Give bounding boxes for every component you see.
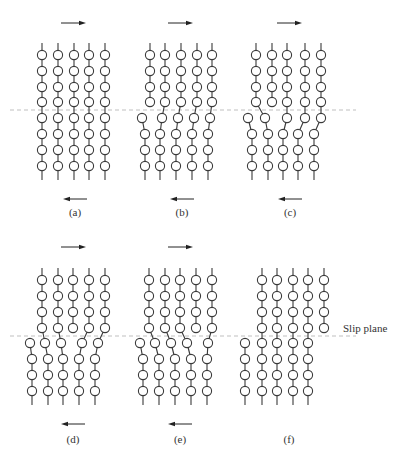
atom-circle-icon [84,50,93,59]
atom-circle-icon [100,307,109,316]
atom-circle-icon [100,161,109,170]
atom-column [53,268,67,405]
atom-circle-icon [173,113,182,122]
atom-circle-icon [160,307,169,316]
atom-circle-icon [37,50,46,59]
atom-circle-icon [251,50,260,59]
atom-circle-icon [257,291,266,300]
atom-column [68,268,77,333]
atom-circle-icon [84,307,93,316]
atom-circle-icon [144,323,153,332]
atom-circle-icon [170,370,179,379]
atom-circle-icon [69,50,78,59]
atom-circle-icon [251,66,260,75]
atom-circle-icon [84,161,93,170]
atom-circle-icon [282,82,291,91]
atom-circle-icon [263,145,272,154]
atom-circle-icon [100,82,109,91]
atom-circle-icon [282,113,291,122]
atom-circle-icon [138,386,147,395]
atom-circle-icon [43,354,52,363]
atom-circle-icon [37,275,46,284]
atom-circle-icon [191,307,200,316]
atom-circle-icon [282,66,291,75]
atom-circle-icon [192,50,201,59]
atom-circle-icon [187,161,196,170]
atom-circle-icon [145,50,154,59]
atom-column [257,268,266,405]
atom-circle-icon [293,145,302,154]
atom-circle-icon [251,97,260,106]
atom-circle-icon [53,275,62,284]
atom-circle-icon [240,354,249,363]
atom-circle-icon [288,275,297,284]
atom-circle-icon [288,370,297,379]
atom-circle-icon [160,50,169,59]
atom-circle-icon [135,338,144,347]
atom-circle-icon [316,97,325,106]
atom-circle-icon [68,307,77,316]
atom-circle-icon [267,82,276,91]
atom-circle-icon [93,338,102,347]
atom-circle-icon [90,370,99,379]
atom-circle-icon [191,291,200,300]
atom-column [203,43,216,180]
atom-circle-icon [140,161,149,170]
atom-circle-icon [247,129,256,138]
atom-circle-icon [203,161,212,170]
atom-circle-icon [160,291,169,300]
atom-column [145,43,154,107]
atom-circle-icon [257,370,266,379]
atom-circle-icon [207,291,216,300]
atom-circle-icon [316,82,325,91]
panel-b: (b) [137,21,216,219]
atom-circle-icon [288,307,297,316]
atom-circle-icon [288,338,297,347]
atom-circle-icon [207,323,216,332]
atom-column [37,268,52,405]
atom-circle-icon [53,129,62,138]
atom-circle-icon [53,291,62,300]
atom-circle-icon [74,370,83,379]
atom-circle-icon [272,323,281,332]
atom-column [303,268,312,405]
atom-circle-icon [267,97,276,106]
atom-circle-icon [272,354,281,363]
atom-column [53,43,62,180]
atom-circle-icon [100,323,109,332]
atom-circle-icon [37,97,46,106]
atom-circle-icon [207,66,216,75]
atom-circle-icon [150,338,159,347]
atom-circle-icon [154,370,163,379]
atom-column [37,43,46,180]
atom-circle-icon [186,370,195,379]
atom-circle-icon [240,386,249,395]
atom-circle-icon [278,129,287,138]
atom-column [175,268,195,405]
atom-circle-icon [53,161,62,170]
atom-circle-icon [309,145,318,154]
atom-circle-icon [175,323,184,332]
shear-arrow-left-icon [278,197,302,202]
atom-circle-icon [58,370,67,379]
atom-circle-icon [160,66,169,75]
atom-circle-icon [247,145,256,154]
atom-circle-icon [145,82,154,91]
atom-circle-icon [144,275,153,284]
panel-label-f: (f) [284,433,295,446]
atom-circle-icon [138,370,147,379]
atom-circle-icon [192,66,201,75]
atom-circle-icon [175,275,184,284]
atom-circle-icon [155,161,164,170]
atom-circle-icon [316,50,325,59]
panel-label-e: (e) [174,433,187,446]
atom-circle-icon [267,50,276,59]
atom-circle-icon [100,129,109,138]
atom-column [155,43,169,180]
atom-circle-icon [160,323,169,332]
atom-circle-icon [272,338,281,347]
atom-circle-icon [303,354,312,363]
atom-circle-icon [192,82,201,91]
atom-circle-icon [100,50,109,59]
atom-circle-icon [145,97,154,106]
